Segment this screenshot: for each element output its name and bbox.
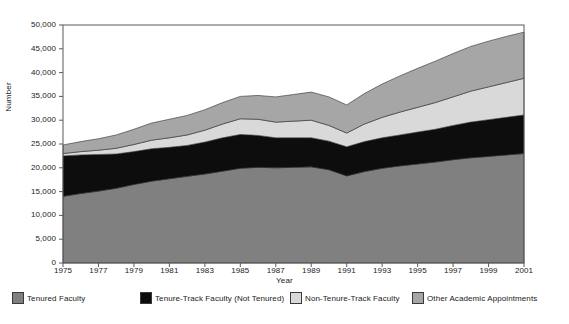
x-axis-tick-label: 1999 [469,266,509,275]
legend-label: Other Academic Appointments [427,294,537,303]
legend-swatch-icon [12,292,24,304]
y-axis-tick-label: 5,000 [10,235,56,243]
stacked-area-chart: 05,00010,00015,00020,00025,00030,00035,0… [0,0,569,324]
x-axis-tick-label: 1987 [256,266,296,275]
x-axis-tick-label: 1979 [114,266,154,275]
x-axis-tick-label: 1981 [149,266,189,275]
legend-label: Non-Tenure-Track Faculty [305,294,400,303]
x-axis-tick-label: 1977 [78,266,118,275]
x-axis-tick-label: 1983 [185,266,225,275]
y-axis-tick-label: 30,000 [10,116,56,124]
y-axis-tick-label: 35,000 [10,92,56,100]
legend-item: Non-Tenure-Track Faculty [290,292,400,304]
x-axis-tick-label: 1993 [362,266,402,275]
x-axis-tick-label: 1985 [220,266,260,275]
y-axis-tick-label: 10,000 [10,211,56,219]
y-axis-tick-label: 25,000 [10,140,56,148]
legend-item: Other Academic Appointments [412,292,537,304]
legend-swatch-icon [290,292,302,304]
x-axis-title: Year [0,276,569,285]
x-axis-tick-label: 1997 [433,266,473,275]
legend-label: Tenured Faculty [27,294,85,303]
y-axis-tick-label: 45,000 [10,45,56,53]
y-axis-tick-label: 15,000 [10,188,56,196]
legend-item: Tenure-Track Faculty (Not Tenured) [140,292,284,304]
y-axis-title: Number [4,62,13,132]
legend-swatch-icon [140,292,152,304]
x-axis-tick-label: 1989 [291,266,331,275]
legend-label: Tenure-Track Faculty (Not Tenured) [155,294,284,303]
y-axis-tick-label: 50,000 [10,21,56,29]
legend-swatch-icon [412,292,424,304]
y-axis-tick-label: 20,000 [10,164,56,172]
x-axis-tick-label: 1991 [327,266,367,275]
x-axis-tick-label: 2001 [504,266,544,275]
y-axis-tick-label: 40,000 [10,69,56,77]
x-axis-tick-label: 1975 [43,266,83,275]
chart-legend: Tenured FacultyTenure-Track Faculty (Not… [0,288,569,308]
legend-item: Tenured Faculty [12,292,85,304]
x-axis-tick-label: 1995 [398,266,438,275]
